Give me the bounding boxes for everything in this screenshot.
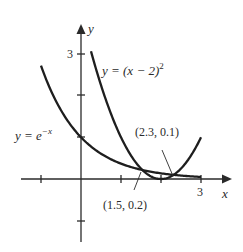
curve-exp-neg-x — [41, 66, 201, 177]
x-axis-arrow-icon — [222, 175, 232, 184]
y-tick-label-3: 3 — [67, 47, 73, 61]
graph: y x 3 3 y = (x − 2)2 y = e−x (1.5, 0.2) … — [0, 0, 243, 252]
curve-label-exp: y = e−x — [13, 126, 52, 143]
x-tick-label-3: 3 — [197, 185, 203, 199]
y-axis-arrow-icon — [77, 24, 86, 34]
annotation-point-2: (2.3, 0.1) — [135, 125, 179, 139]
annotation-leader-1 — [134, 172, 141, 190]
y-axis-label: y — [86, 21, 94, 36]
annotation-point-1: (1.5, 0.2) — [103, 198, 147, 212]
curve-label-parabola: y = (x − 2)2 — [100, 61, 164, 78]
annotation-leader-2 — [162, 150, 173, 176]
x-axis-label: x — [221, 186, 228, 201]
